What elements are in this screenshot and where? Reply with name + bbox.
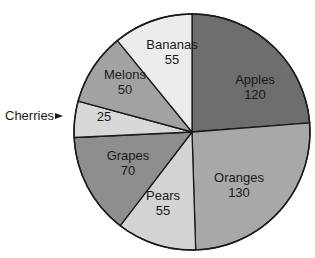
slice-name: Pears [146,188,180,203]
slice-value: 55 [156,203,170,218]
slice-value: 25 [97,109,111,124]
slice-value: 50 [118,82,132,97]
cherries-callout-label: Cherries [5,108,55,123]
pie-slice-oranges [192,123,310,250]
slice-name: Grapes [107,148,150,163]
slice-value: 70 [121,163,135,178]
cherries-callout: Cherries [5,108,63,123]
slice-value: 120 [244,87,266,102]
slice-name: Melons [104,67,146,82]
slice-value: 130 [228,185,250,200]
callout-arrow-icon [55,113,63,119]
pie-chart: Apples120Oranges130Pears55Grapes7025Melo… [0,0,315,258]
slice-name: Oranges [214,170,264,185]
slice-value: 55 [165,52,179,67]
slice-label-cherries: 25 [97,109,111,124]
slice-name: Bananas [146,37,198,52]
slice-name: Apples [235,72,275,87]
